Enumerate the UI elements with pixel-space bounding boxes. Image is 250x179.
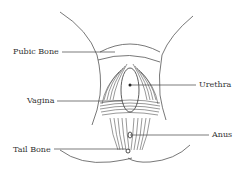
- pubic-bone-arc: [100, 44, 160, 52]
- pubic-bone-label: Pubic Bone: [13, 47, 59, 56]
- muscle-fibers: [100, 64, 160, 150]
- right-buttock-curve: [128, 145, 190, 162]
- urethra-label: Urethra: [199, 80, 231, 89]
- right-thigh-outline: [159, 16, 193, 120]
- tail-bone-label: Tail Bone: [13, 145, 51, 154]
- left-thigh-outline: [60, 12, 101, 125]
- anus-label: Anus: [212, 130, 232, 139]
- tail-bone-marker: [126, 149, 130, 153]
- left-buttock-curve: [60, 150, 132, 163]
- vagina-label: Vagina: [27, 96, 54, 105]
